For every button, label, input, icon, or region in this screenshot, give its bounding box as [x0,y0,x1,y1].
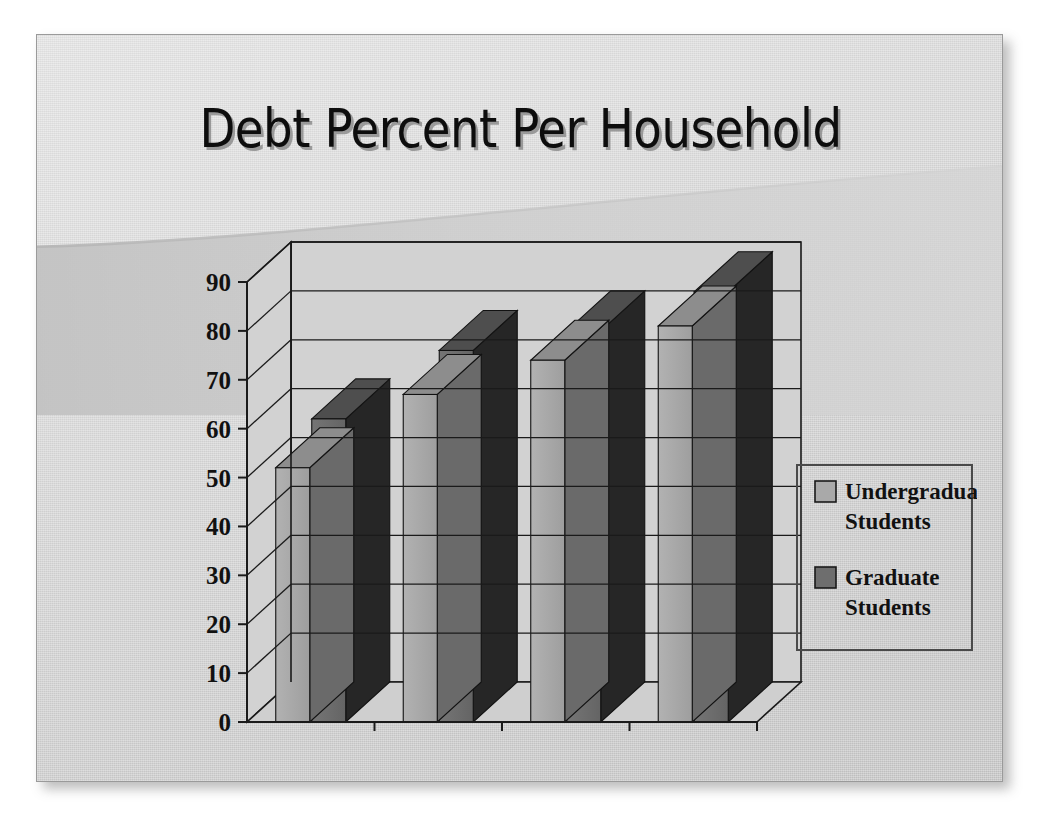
y-axis-tick-label: 90 [206,269,231,296]
bar-3d [403,354,481,722]
y-axis-tick-label: 70 [206,367,231,394]
bar-3d [531,320,609,722]
legend-entry-label: Undergraduate [845,479,977,504]
bar-side-face [437,354,481,722]
y-axis-tick-label: 80 [206,318,231,345]
y-axis-tick-label: 40 [206,513,231,540]
y-axis-tick-label: 30 [206,562,231,589]
bar-front-face [531,360,565,722]
bar-chart: 010203040506070809015 YearsAgo10 YearsAg… [147,220,977,740]
y-axis-tick-label: 0 [219,709,232,736]
y-axis-tick-label: 20 [206,611,231,638]
bar-front-face [403,394,437,722]
bar-side-face [692,286,736,722]
bar-front-face [658,326,692,722]
bar-front-face [276,468,310,722]
slide-title: Debt Percent Per Household [95,98,946,159]
legend-swatch [815,481,836,502]
bar-side-face [565,320,609,722]
legend-swatch [815,567,836,588]
presentation-slide: Debt Percent Per Household [36,34,1003,782]
bar-3d [276,428,354,722]
bar-3d [658,286,736,722]
legend-entry-label: Graduate [845,565,940,590]
y-axis-tick-label: 50 [206,465,231,492]
y-axis-tick-label: 60 [206,416,231,443]
chart-legend: UndergraduateStudentsGraduateStudents [797,465,977,650]
slide-canvas: Debt Percent Per Household [0,0,1044,825]
bar-side-face [310,428,354,722]
y-axis-tick-label: 10 [206,660,231,687]
legend-entry-label: Students [845,509,931,534]
legend-entry-label: Students [845,595,931,620]
